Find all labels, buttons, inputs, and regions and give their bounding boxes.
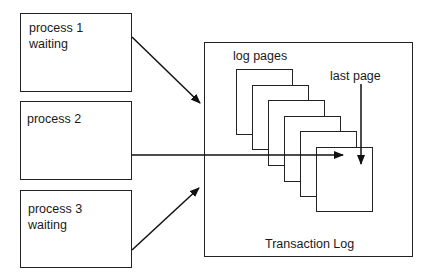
- arrows-layer: [0, 0, 429, 277]
- arrow-process-1: [132, 37, 200, 103]
- arrow-process-3: [132, 188, 199, 250]
